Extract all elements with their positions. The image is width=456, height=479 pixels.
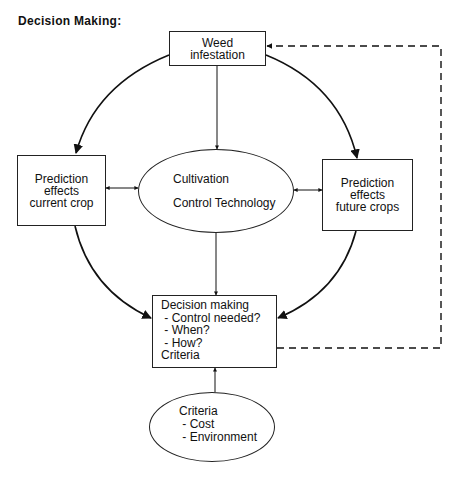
arc-current-to-decision [75,226,151,318]
node-prediction-future-crops: Prediction effects future crops [322,159,413,231]
node-label: Decision making [161,299,276,312]
node-label: infestation [190,49,245,61]
node-label: Cultivation [173,172,229,186]
node-label: Control Technology [173,196,276,210]
node-label: effects [44,185,79,197]
node-prediction-current-crop: Prediction effects current crop [17,155,106,226]
arc-future-to-decision [278,231,356,318]
node-label: - When? [161,324,276,337]
node-label: Weed [202,37,233,49]
node-decision-making: Decision making - Control needed? - When… [152,295,277,368]
arc-weed-to-current [76,55,169,153]
node-criteria: Criteria - Cost - Environment [149,392,275,462]
node-label: current crop [29,197,93,209]
node-label: Criteria [161,349,276,362]
node-label: future crops [336,201,399,213]
node-label: Prediction [35,173,88,185]
arc-weed-to-future [266,55,357,158]
node-label: - Environment [179,431,257,444]
node-cultivation-control: Cultivation Control Technology [138,149,294,233]
node-weed-infestation: Weed infestation [169,31,266,66]
